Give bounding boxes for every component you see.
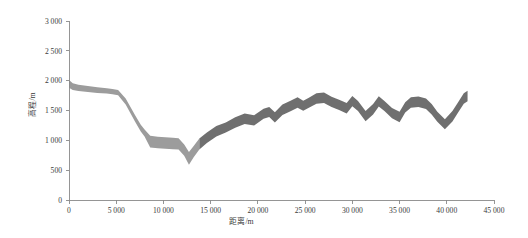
x-axis-ticks: 05 00010 00015 00020 00025 00030 00035 0… xyxy=(67,200,505,215)
x-tick-label: 30 000 xyxy=(342,206,363,215)
band-segment-light xyxy=(69,80,199,165)
band-segment-dark xyxy=(199,91,467,150)
x-tick-label: 45 000 xyxy=(484,206,505,215)
chart-container: 05001 0001 5002 0002 5003 000 05 00010 0… xyxy=(0,0,528,238)
y-tick-label: 1 500 xyxy=(45,106,62,115)
x-axis-title: 距离/m xyxy=(229,216,253,226)
y-tick-label: 500 xyxy=(51,166,63,175)
x-tick-label: 0 xyxy=(67,206,71,215)
y-axis-ticks: 05001 0001 5002 0002 5003 000 xyxy=(45,17,69,205)
x-tick-label: 35 000 xyxy=(389,206,410,215)
x-tick-label: 15 000 xyxy=(200,206,221,215)
y-tick-label: 3 000 xyxy=(45,17,62,26)
elevation-profile-chart: 05001 0001 5002 0002 5003 000 05 00010 0… xyxy=(0,0,528,238)
y-axis-title: 高程/m xyxy=(27,92,37,116)
y-tick-label: 2 500 xyxy=(45,47,62,56)
x-tick-label: 40 000 xyxy=(436,206,457,215)
y-tick-label: 1 000 xyxy=(45,136,62,145)
x-tick-label: 25 000 xyxy=(295,206,316,215)
y-tick-label: 0 xyxy=(58,196,62,205)
x-tick-label: 20 000 xyxy=(247,206,268,215)
x-tick-label: 10 000 xyxy=(153,206,174,215)
x-tick-label: 5 000 xyxy=(108,206,125,215)
band-fill-group xyxy=(69,80,468,165)
y-tick-label: 2 000 xyxy=(45,76,62,85)
